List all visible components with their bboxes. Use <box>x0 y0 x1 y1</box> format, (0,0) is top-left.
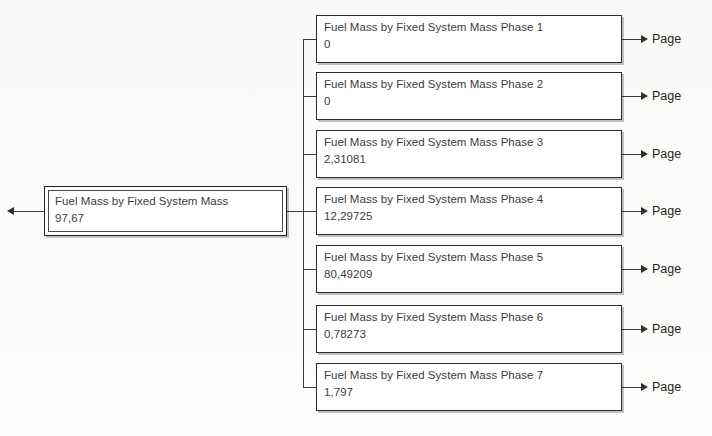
node-root-title: Fuel Mass by Fixed System Mass <box>55 195 228 207</box>
node-phase-4-title: Fuel Mass by Fixed System Mass Phase 4 <box>324 193 543 205</box>
branch-stub-5 <box>303 269 316 270</box>
node-phase-6-title: Fuel Mass by Fixed System Mass Phase 6 <box>324 311 543 323</box>
leaf-arrow-icon-6 <box>641 325 648 333</box>
leaf-arrow-icon-3 <box>641 150 648 158</box>
leaf-arrow-icon-2 <box>641 92 648 100</box>
node-phase-3[interactable]: Fuel Mass by Fixed System Mass Phase 3 2… <box>316 130 622 178</box>
leaf-arrow-icon-4 <box>641 207 648 215</box>
page-label-2[interactable]: Page <box>652 89 681 103</box>
branch-stub-1 <box>303 39 316 40</box>
leaf-line-6 <box>622 329 641 330</box>
branch-stub-4 <box>303 211 316 212</box>
node-phase-1-title: Fuel Mass by Fixed System Mass Phase 1 <box>324 21 543 33</box>
node-phase-3-title: Fuel Mass by Fixed System Mass Phase 3 <box>324 136 543 148</box>
node-root-value: 97,67 <box>55 212 84 224</box>
node-phase-6-value: 0,78273 <box>324 328 366 340</box>
node-phase-3-value: 2,31081 <box>324 153 366 165</box>
node-phase-1-value: 0 <box>324 38 330 50</box>
page-label-4[interactable]: Page <box>652 204 681 218</box>
branch-trunk <box>303 39 304 387</box>
leaf-line-1 <box>622 39 641 40</box>
leaf-line-3 <box>622 154 641 155</box>
leaf-line-5 <box>622 269 641 270</box>
leaf-line-4 <box>622 211 641 212</box>
page-label-5[interactable]: Page <box>652 262 681 276</box>
node-phase-1[interactable]: Fuel Mass by Fixed System Mass Phase 1 0 <box>316 15 622 63</box>
diagram-canvas: Fuel Mass by Fixed System Mass 97,67 Fue… <box>0 0 712 436</box>
node-phase-7-value: 1,797 <box>324 386 353 398</box>
root-outgoing-stub <box>287 211 304 212</box>
branch-stub-6 <box>303 329 316 330</box>
root-incoming-arrow-icon <box>7 207 14 215</box>
node-phase-7-title: Fuel Mass by Fixed System Mass Phase 7 <box>324 369 543 381</box>
leaf-line-2 <box>622 96 641 97</box>
branch-stub-7 <box>303 387 316 388</box>
leaf-arrow-icon-1 <box>641 35 648 43</box>
node-phase-4[interactable]: Fuel Mass by Fixed System Mass Phase 4 1… <box>316 187 622 235</box>
branch-stub-2 <box>303 96 316 97</box>
page-label-1[interactable]: Page <box>652 32 681 46</box>
page-label-7[interactable]: Page <box>652 380 681 394</box>
node-phase-6[interactable]: Fuel Mass by Fixed System Mass Phase 6 0… <box>316 305 622 353</box>
root-incoming-line <box>14 211 44 212</box>
branch-stub-3 <box>303 154 316 155</box>
node-phase-7[interactable]: Fuel Mass by Fixed System Mass Phase 7 1… <box>316 363 622 411</box>
leaf-line-7 <box>622 387 641 388</box>
node-phase-5[interactable]: Fuel Mass by Fixed System Mass Phase 5 8… <box>316 245 622 293</box>
node-phase-2-title: Fuel Mass by Fixed System Mass Phase 2 <box>324 78 543 90</box>
node-phase-4-value: 12,29725 <box>324 210 372 222</box>
leaf-arrow-icon-7 <box>641 383 648 391</box>
page-label-6[interactable]: Page <box>652 322 681 336</box>
page-label-3[interactable]: Page <box>652 147 681 161</box>
node-root[interactable]: Fuel Mass by Fixed System Mass 97,67 <box>44 186 287 236</box>
node-phase-2[interactable]: Fuel Mass by Fixed System Mass Phase 2 0 <box>316 72 622 120</box>
node-phase-5-value: 80,49209 <box>324 268 372 280</box>
node-phase-2-value: 0 <box>324 95 330 107</box>
leaf-arrow-icon-5 <box>641 265 648 273</box>
node-phase-5-title: Fuel Mass by Fixed System Mass Phase 5 <box>324 251 543 263</box>
